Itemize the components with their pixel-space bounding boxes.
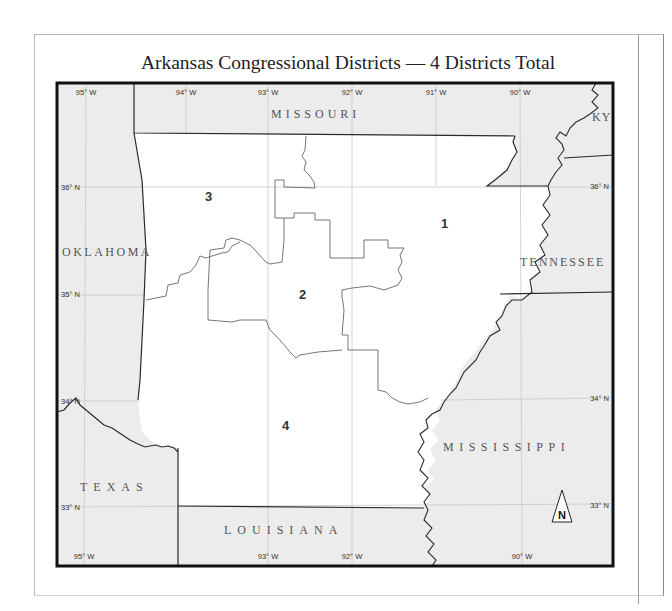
north-arrow-label: N [558, 509, 566, 521]
lon-label: 94° W [176, 88, 197, 97]
lat-label: 33° N [590, 501, 609, 510]
lon-label: 92° W [342, 88, 363, 97]
lat-label: 36° N [590, 182, 609, 191]
lon-label: 90° W [512, 552, 533, 561]
map-canvas: 95° W 94° W 93° W 92° W 91° W 90° W 95° … [0, 0, 672, 611]
district-label-1[interactable]: 1 [441, 216, 448, 231]
lat-label: 35° N [61, 290, 80, 299]
lon-label: 95° W [76, 88, 97, 97]
lon-label: 91° W [426, 88, 447, 97]
lon-label: 93° W [258, 88, 279, 97]
district-label-2[interactable]: 2 [299, 287, 306, 302]
state-label-mississippi: MISSISSIPPI [443, 440, 570, 454]
state-label-tennessee: TENNESSEE [520, 255, 605, 269]
lon-label: 93° W [258, 552, 279, 561]
lon-label: 92° W [342, 552, 363, 561]
state-label-kentucky: KY [592, 110, 611, 124]
lat-label: 34° N [590, 394, 609, 403]
lon-label: 95° W [74, 552, 95, 561]
district-label-4[interactable]: 4 [282, 418, 290, 433]
lat-label: 34° N [61, 397, 80, 406]
state-label-missouri: MISSOURI [271, 107, 360, 121]
district-label-3[interactable]: 3 [205, 189, 212, 204]
lon-label: 90° W [510, 88, 531, 97]
state-label-texas: TEXAS [80, 480, 149, 494]
lat-label: 36° N [61, 183, 80, 192]
state-label-louisiana: LOUISIANA [224, 523, 343, 537]
state-label-oklahoma: OKLAHOMA [62, 245, 152, 259]
lat-label: 33° N [61, 503, 80, 512]
